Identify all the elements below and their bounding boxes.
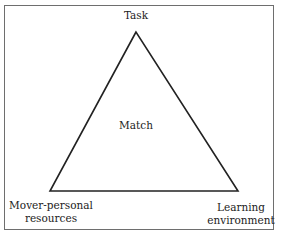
vertex-label-mover-personal-resources: Mover-personal resources xyxy=(6,199,96,225)
mover-label-line2: resources xyxy=(6,212,96,225)
mover-label-line1: Mover-personal xyxy=(6,199,96,212)
center-label-match: Match xyxy=(111,119,161,132)
learning-label-line1: Learning xyxy=(204,201,278,214)
vertex-label-task: Task xyxy=(116,9,156,22)
triangle-shape xyxy=(50,32,238,191)
learning-label-line2: environment xyxy=(204,214,278,227)
vertex-label-learning-environment: Learning environment xyxy=(204,201,278,227)
